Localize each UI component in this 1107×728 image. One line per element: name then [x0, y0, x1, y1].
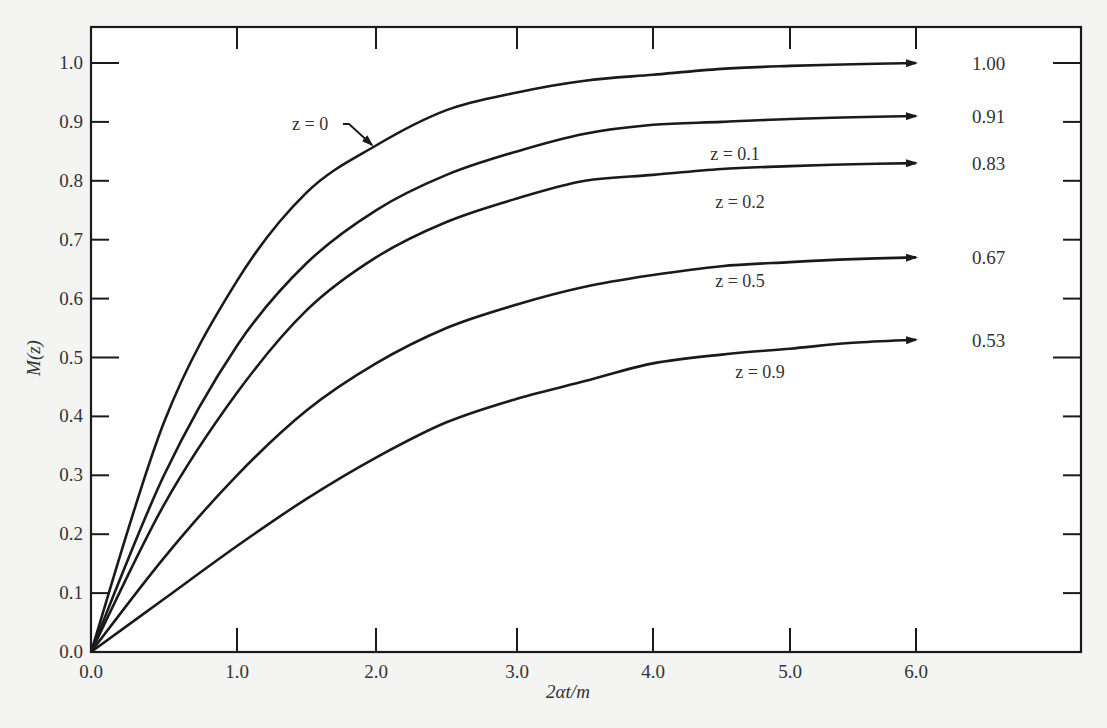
x-tick-label: 3.0 [505, 661, 529, 682]
plot-background [91, 27, 1081, 652]
series-label-z0: z = 0 [292, 114, 328, 134]
y-tick-label: 1.0 [59, 52, 83, 73]
series-label: z = 0.1 [710, 144, 760, 164]
y-tick-label: 0.1 [59, 582, 83, 603]
series-label: z = 0.2 [715, 192, 765, 212]
x-axis-title: 2αt/m [546, 681, 590, 702]
y-axis-title: M(z) [23, 340, 45, 377]
x-tick-label: 0.0 [79, 661, 103, 682]
y-tick-label: 0.4 [59, 405, 83, 426]
x-tick-label: 2.0 [364, 661, 388, 682]
asymptote-label: 0.91 [972, 106, 1005, 127]
x-tick-label: 5.0 [778, 661, 802, 682]
y-tick-label: 0.0 [59, 641, 83, 662]
y-tick-label: 0.8 [59, 170, 83, 191]
series-label: z = 0.9 [735, 362, 785, 382]
asymptote-label: 0.83 [972, 153, 1005, 174]
y-tick-label: 0.5 [59, 347, 83, 368]
x-tick-label: 1.0 [225, 661, 249, 682]
y-tick-label: 0.2 [59, 523, 83, 544]
asymptote-label: 0.53 [972, 330, 1005, 351]
y-tick-label: 0.7 [59, 229, 83, 250]
y-tick-label: 0.9 [59, 111, 83, 132]
x-tick-label: 6.0 [904, 661, 928, 682]
asymptote-label: 0.67 [972, 247, 1005, 268]
series-label: z = 0.5 [715, 271, 765, 291]
asymptote-label: 1.00 [972, 53, 1005, 74]
y-tick-label: 0.3 [59, 464, 83, 485]
y-tick-label: 0.6 [59, 288, 83, 309]
chart: 0.00.10.20.30.40.50.60.70.80.91.00.01.02… [0, 0, 1107, 728]
x-tick-label: 4.0 [641, 661, 665, 682]
